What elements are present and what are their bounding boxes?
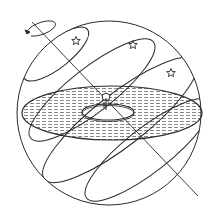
star-path-path-1 <box>16 18 96 89</box>
observer-island <box>82 104 134 120</box>
celestial-sphere-diagram <box>0 0 207 220</box>
star-3-icon <box>167 69 176 77</box>
stars <box>72 37 176 77</box>
rotation-arrow-icon <box>25 21 55 36</box>
diagram-canvas <box>0 0 207 220</box>
star-1-icon <box>72 37 81 45</box>
